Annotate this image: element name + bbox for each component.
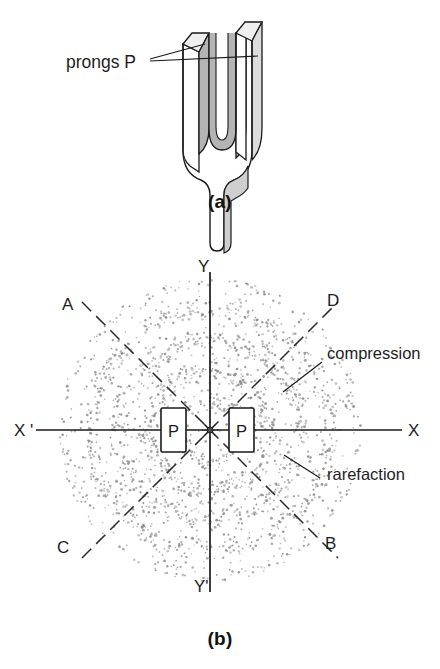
origin-starburst-icon <box>202 422 218 438</box>
compression-leader-line <box>283 362 322 392</box>
ray-label-b: B <box>325 535 336 552</box>
panel-b-caption: (b) <box>0 628 440 650</box>
ray-label-c: C <box>57 539 69 556</box>
compression-annotation-label: compression <box>327 345 421 362</box>
axis-label-x: X <box>408 422 419 439</box>
axis-label-y: Y <box>198 258 209 275</box>
prong-marker-left: P <box>161 408 186 452</box>
rarefaction-leader-line <box>284 455 320 478</box>
ray-label-a: A <box>62 296 73 313</box>
prong-marker-right: P <box>229 408 254 452</box>
axis-label-y-prime: Y' <box>194 578 209 595</box>
prong-marker-left-label: P <box>168 422 179 440</box>
ray-label-d: D <box>327 292 339 309</box>
figure-root: prongs P (a) <box>0 0 440 669</box>
principal-axes <box>36 272 402 592</box>
axis-label-x-prime: X ' <box>14 422 33 439</box>
wave-propagation-diagram: P P <box>0 0 440 669</box>
rarefaction-annotation-label: rarefaction <box>327 466 405 483</box>
prong-marker-right-label: P <box>236 422 247 440</box>
